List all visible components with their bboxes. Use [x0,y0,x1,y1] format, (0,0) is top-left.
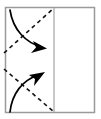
paper-folding-diagram [0,0,101,119]
fold-diagram-container [0,0,101,119]
paper-sheet [6,8,95,113]
